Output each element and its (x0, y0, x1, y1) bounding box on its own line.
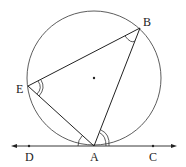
arrow-left-icon (11, 144, 17, 148)
center-point (93, 77, 95, 79)
point-d (28, 145, 30, 147)
segment-ba (94, 28, 140, 146)
label-d: D (25, 150, 34, 164)
arrow-right-icon (171, 144, 177, 148)
label-c: C (149, 150, 157, 164)
point-c (152, 145, 154, 147)
angle-mark-e-1 (37, 81, 40, 94)
geometry-figure: B E A D C (0, 0, 186, 167)
segment-ae (28, 86, 94, 146)
label-b: B (143, 15, 151, 29)
angle-mark-b (125, 36, 135, 42)
segment-eb (28, 28, 140, 86)
angle-mark-a-left (78, 136, 82, 146)
label-e: E (16, 82, 23, 96)
label-a: A (90, 150, 99, 164)
angle-mark-e-2 (39, 80, 43, 96)
